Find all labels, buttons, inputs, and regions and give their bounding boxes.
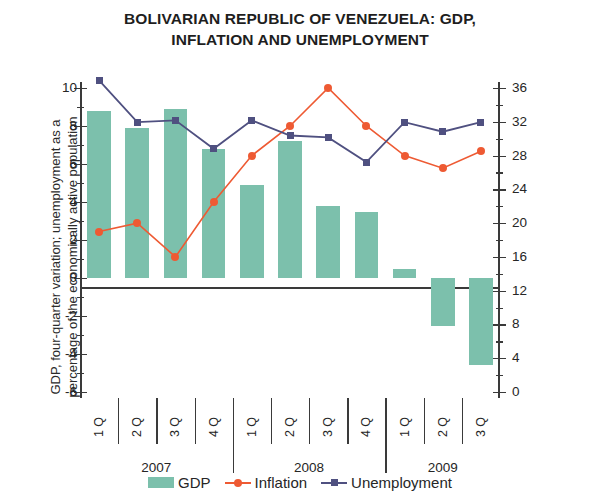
quarter-label: 1 Q	[398, 410, 412, 444]
unemployment-point	[401, 119, 408, 126]
quarter-separator	[347, 398, 348, 444]
inflation-point	[95, 228, 103, 236]
unemployment-point	[248, 117, 255, 124]
right-tick-label: 32	[512, 115, 552, 129]
quarter-separator	[424, 398, 425, 444]
legend-item-inflation: Inflation	[225, 474, 308, 491]
inflation-point	[210, 198, 218, 206]
chart-title: BOLIVARIAN REPUBLIC OF VENEZUELA: GDP, I…	[0, 8, 600, 50]
quarter-separator	[462, 398, 463, 444]
unemployment-point	[210, 145, 217, 152]
quarter-label: 3 Q	[474, 410, 488, 444]
chart-container: BOLIVARIAN REPUBLIC OF VENEZUELA: GDP, I…	[0, 0, 600, 499]
right-tick-label: 4	[512, 351, 552, 365]
quarter-label: 2 Q	[283, 410, 297, 444]
right-tick-label: 8	[512, 317, 552, 331]
quarter-label: 2 Q	[130, 410, 144, 444]
right-tick-label: 0	[512, 385, 552, 399]
unemployment-swatch-icon	[321, 477, 347, 488]
quarter-separator	[309, 398, 310, 444]
inflation-point	[401, 152, 409, 160]
inflation-point	[248, 152, 256, 160]
right-tick	[493, 392, 506, 393]
unemployment-point	[363, 159, 370, 166]
quarter-label: 2 Q	[436, 410, 450, 444]
gdp-swatch-icon	[148, 477, 174, 488]
legend-label-inflation: Inflation	[255, 474, 308, 491]
chart-legend: GDP Inflation Unemployment	[0, 474, 600, 491]
quarter-label: 3 Q	[168, 410, 182, 444]
unemployment-point	[134, 119, 141, 126]
left-axis-title: GDP, four-quarter variation; unemploymen…	[47, 97, 81, 417]
right-tick-label: 20	[512, 216, 552, 230]
right-tick-label: 24	[512, 182, 552, 196]
plot-area: -6-4-20246810 04812162024283236	[80, 88, 500, 392]
year-label: 2008	[249, 460, 369, 475]
unemployment-point	[96, 77, 103, 84]
quarter-separator	[195, 398, 196, 444]
quarter-label: 4 Q	[207, 410, 221, 444]
inflation-point	[286, 122, 294, 130]
year-separator	[233, 398, 234, 473]
left-tick-label: 6	[37, 157, 77, 171]
unemployment-point	[477, 119, 484, 126]
right-tick-label: 16	[512, 250, 552, 264]
right-tick-label: 12	[512, 284, 552, 298]
left-tick-label: 10	[37, 81, 77, 95]
unemployment-point	[287, 132, 294, 139]
quarter-label: 1 Q	[92, 410, 106, 444]
year-label: 2007	[96, 460, 216, 475]
legend-item-gdp: GDP	[148, 474, 211, 491]
quarter-separator	[156, 398, 157, 444]
unemployment-point	[172, 117, 179, 124]
chart-title-line-2: INFLATION AND UNEMPLOYMENT	[0, 29, 600, 50]
unemployment-point	[325, 134, 332, 141]
quarter-label: 4 Q	[359, 410, 373, 444]
inflation-line	[99, 88, 481, 257]
left-tick-label: 8	[37, 119, 77, 133]
quarter-separator	[118, 398, 119, 444]
quarter-label: 3 Q	[321, 410, 335, 444]
inflation-swatch-icon	[225, 477, 251, 488]
chart-title-line-1: BOLIVARIAN REPUBLIC OF VENEZUELA: GDP,	[124, 10, 476, 27]
left-tick-label: -6	[37, 385, 77, 399]
inflation-point	[439, 164, 447, 172]
right-tick-label: 36	[512, 81, 552, 95]
quarter-label: 1 Q	[245, 410, 259, 444]
left-tick-label: 2	[37, 233, 77, 247]
year-label: 2009	[383, 460, 503, 475]
left-tick-label: 0	[37, 271, 77, 285]
right-tick-label: 28	[512, 149, 552, 163]
legend-label-unemployment: Unemployment	[351, 474, 452, 491]
unemployment-point	[439, 128, 446, 135]
legend-item-unemployment: Unemployment	[321, 474, 452, 491]
left-tick-label: -2	[37, 309, 77, 323]
legend-label-gdp: GDP	[178, 474, 211, 491]
quarter-separator	[271, 398, 272, 444]
left-tick-label: 4	[37, 195, 77, 209]
left-tick-label: -4	[37, 347, 77, 361]
